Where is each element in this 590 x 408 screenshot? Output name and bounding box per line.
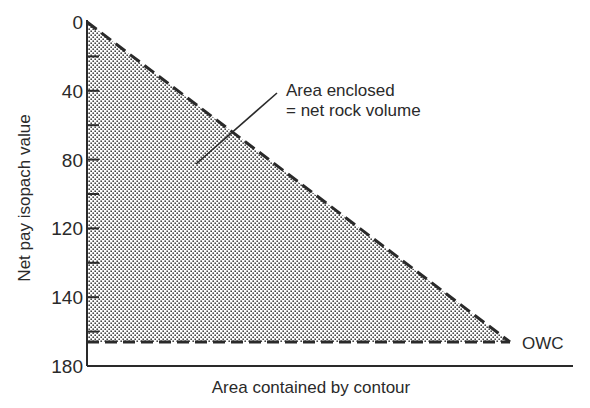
net-rock-volume-diagram: 04080120140180 Area enclosed = net rock … bbox=[0, 0, 590, 408]
y-tick-label: 180 bbox=[51, 356, 83, 377]
y-tick-label: 0 bbox=[72, 12, 83, 33]
x-axis-title: Area contained by contour bbox=[212, 378, 411, 397]
annotation-line-2: = net rock volume bbox=[286, 101, 421, 120]
annotation-line-1: Area enclosed bbox=[286, 81, 395, 100]
y-axis-tick-labels: 04080120140180 bbox=[51, 12, 83, 377]
y-tick-label: 140 bbox=[51, 287, 83, 308]
owc-label: OWC bbox=[522, 334, 564, 353]
y-tick-label: 80 bbox=[62, 150, 83, 171]
y-tick-label: 40 bbox=[62, 81, 83, 102]
y-tick-label: 120 bbox=[51, 218, 83, 239]
y-axis-title: Net pay isopach value bbox=[15, 114, 34, 281]
